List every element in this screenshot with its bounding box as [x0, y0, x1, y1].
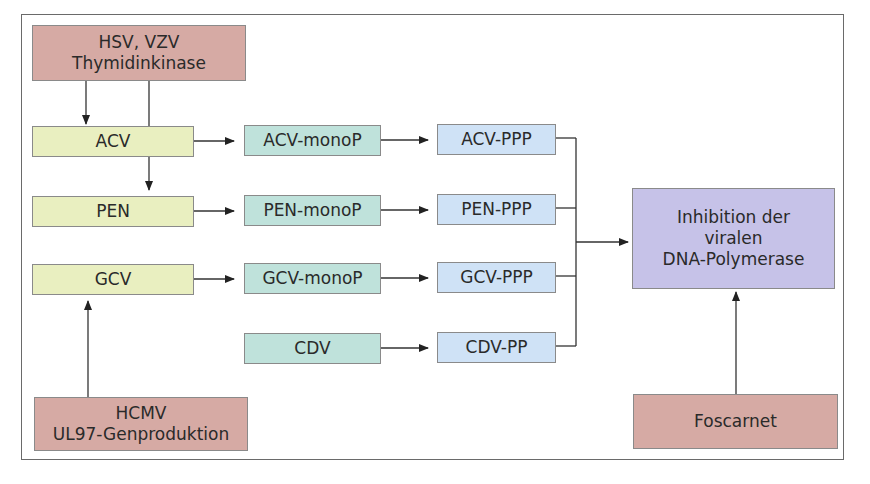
hsv-vzv-thymidinkinase-box: HSV, VZV Thymidinkinase [32, 25, 246, 81]
hsv-tk-line1: HSV, VZV [72, 32, 206, 53]
hcmv-line2: UL97-Genproduktion [53, 424, 230, 445]
cdv-box: CDV [244, 333, 381, 364]
hcmv-line1: HCMV [53, 403, 230, 424]
acv-box: ACV [32, 126, 194, 157]
inhibition-dna-polymerase-box: Inhibition der viralen DNA-Polymerase [632, 188, 835, 289]
inhibition-line1: Inhibition der [663, 207, 805, 228]
hsv-tk-line2: Thymidinkinase [72, 53, 206, 74]
gcv-box: GCV [32, 264, 194, 295]
gcv-ppp-box: GCV-PPP [437, 262, 556, 293]
inhibition-line2: viralen [663, 228, 805, 249]
acv-ppp-box: ACV-PPP [437, 124, 556, 155]
pen-monop-box: PEN-monoP [244, 195, 381, 226]
foscarnet-box: Foscarnet [633, 394, 838, 449]
pen-box: PEN [32, 196, 194, 227]
inhibition-line3: DNA-Polymerase [663, 249, 805, 270]
pen-ppp-box: PEN-PPP [437, 194, 556, 225]
cdv-pp-box: CDV-PP [437, 332, 556, 363]
gcv-monop-box: GCV-monoP [244, 263, 381, 294]
hcmv-ul97-box: HCMV UL97-Genproduktion [34, 397, 248, 451]
acv-monop-box: ACV-monoP [244, 125, 381, 156]
